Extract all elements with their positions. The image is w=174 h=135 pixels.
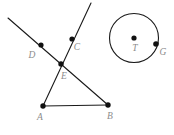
label-A: A [36,112,43,122]
line-group [8,3,108,106]
label-C: C [74,42,81,52]
point-C [69,36,74,41]
label-T: T [132,43,138,53]
geometry-figure: D C E A B T G [0,0,174,135]
point-group [38,35,158,108]
point-E [58,61,63,66]
geometry-diagram-canvas: D C E A B T G [0,0,174,135]
point-B [105,102,110,107]
point-D [38,42,43,47]
point-G [153,41,159,47]
line-through-D-E-B [8,18,108,105]
segment-A-B [43,105,108,106]
point-A [40,103,45,108]
label-E: E [60,71,67,81]
label-D: D [28,50,36,60]
label-G: G [160,47,167,57]
label-group: D C E A B T G [28,42,167,122]
point-T [131,35,136,40]
label-B: B [107,111,113,121]
